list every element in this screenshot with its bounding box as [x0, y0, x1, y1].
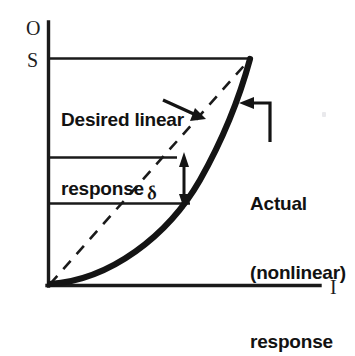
actual-label-line-1: Actual	[250, 192, 346, 215]
actual-label-line-2: (nonlinear)	[250, 261, 346, 284]
y-axis-label-s: S	[27, 50, 38, 70]
desired-label-line-1: Desired linear	[61, 108, 184, 131]
scan-artifact-speck	[322, 112, 326, 117]
desired-label-line-2: response	[61, 177, 184, 200]
actual-pointer-arrowhead	[239, 97, 254, 109]
actual-nonlinear-response-label: Actual (nonlinear) response	[250, 146, 346, 356]
y-axis-label-o: O	[26, 18, 40, 38]
actual-pointer-shaft	[252, 103, 270, 142]
actual-label-line-3: response	[250, 330, 346, 353]
desired-linear-response-label: Desired linear response	[61, 62, 184, 223]
actual-response-pointer-elbow	[239, 97, 270, 142]
